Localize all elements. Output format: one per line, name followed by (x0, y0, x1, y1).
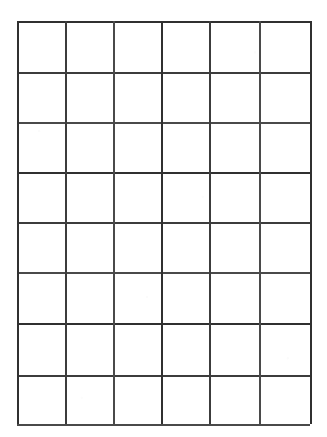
grid-cell-r6-c1[interactable] (17, 272, 65, 323)
grid-cell-r2-c5[interactable] (209, 72, 259, 122)
grid-cell-r5-c1[interactable] (17, 222, 65, 272)
grid-cell-r4-c6[interactable] (259, 172, 310, 222)
grid-rule-horizontal-7 (17, 375, 310, 377)
grid-cell-r3-c3[interactable] (113, 122, 161, 172)
grid-cell-r4-c3[interactable] (113, 172, 161, 222)
grid-cell-r2-c3[interactable] (113, 72, 161, 122)
grid-border-right (310, 21, 312, 424)
grid-cell-r2-c2[interactable] (65, 72, 113, 122)
grid-cell-r8-c2[interactable] (65, 375, 113, 424)
grid-cell-r7-c2[interactable] (65, 323, 113, 375)
grid-rule-horizontal-2 (17, 122, 310, 124)
grid-border-top (17, 21, 310, 23)
grid-cell-r7-c1[interactable] (17, 323, 65, 375)
grid-cell-r3-c6[interactable] (259, 122, 310, 172)
grid-cell-r4-c5[interactable] (209, 172, 259, 222)
grid-rule-vertical-4 (209, 21, 211, 424)
grid-cell-r3-c5[interactable] (209, 122, 259, 172)
grid-cell-r8-c4[interactable] (161, 375, 209, 424)
grid-cell-r6-c6[interactable] (259, 272, 310, 323)
grid-cell-r6-c3[interactable] (113, 272, 161, 323)
grid-cell-r2-c4[interactable] (161, 72, 209, 122)
grid-cell-r8-c1[interactable] (17, 375, 65, 424)
grid-rule-vertical-1 (65, 21, 67, 424)
grid-cell-r6-c5[interactable] (209, 272, 259, 323)
grid-cell-r1-c3[interactable] (113, 21, 161, 72)
grid-cell-r6-c4[interactable] (161, 272, 209, 323)
grid-cell-r1-c6[interactable] (259, 21, 310, 72)
grid-cell-r3-c4[interactable] (161, 122, 209, 172)
grid-rule-horizontal-1 (17, 72, 310, 74)
grid-cell-r5-c5[interactable] (209, 222, 259, 272)
grid-cell-r4-c1[interactable] (17, 172, 65, 222)
grid-cell-r5-c4[interactable] (161, 222, 209, 272)
grid-rule-horizontal-6 (17, 323, 310, 325)
grid-cell-r5-c6[interactable] (259, 222, 310, 272)
grid-cell-r1-c5[interactable] (209, 21, 259, 72)
grid-cell-r1-c1[interactable] (17, 21, 65, 72)
grid-cell-r6-c2[interactable] (65, 272, 113, 323)
grid-cell-r3-c1[interactable] (17, 122, 65, 172)
grid-cell-r4-c2[interactable] (65, 172, 113, 222)
worksheet-page (0, 0, 327, 437)
grid-cell-r8-c5[interactable] (209, 375, 259, 424)
grid-cell-r8-c3[interactable] (113, 375, 161, 424)
grid-border-left (17, 21, 19, 424)
grid-cell-r2-c6[interactable] (259, 72, 310, 122)
grid-cell-r8-c6[interactable] (259, 375, 310, 424)
grid-rule-vertical-5 (259, 21, 261, 424)
grid-cell-r1-c2[interactable] (65, 21, 113, 72)
grid-cell-r3-c2[interactable] (65, 122, 113, 172)
grid-cell-r5-c3[interactable] (113, 222, 161, 272)
grid-cell-r4-c4[interactable] (161, 172, 209, 222)
grid-rule-horizontal-3 (17, 172, 310, 174)
grid-cell-r7-c6[interactable] (259, 323, 310, 375)
grid-border-bottom (17, 424, 310, 426)
grid-cell-r7-c4[interactable] (161, 323, 209, 375)
grid-cell-r1-c4[interactable] (161, 21, 209, 72)
grid-cell-r5-c2[interactable] (65, 222, 113, 272)
grid-rule-horizontal-4 (17, 222, 310, 224)
grid-cell-r2-c1[interactable] (17, 72, 65, 122)
grid-cell-r7-c5[interactable] (209, 323, 259, 375)
grid-rule-horizontal-5 (17, 272, 310, 274)
grid-rule-vertical-2 (113, 21, 115, 424)
grid-cell-r7-c3[interactable] (113, 323, 161, 375)
grid-rule-vertical-3 (161, 21, 163, 424)
grid-table (17, 21, 310, 424)
